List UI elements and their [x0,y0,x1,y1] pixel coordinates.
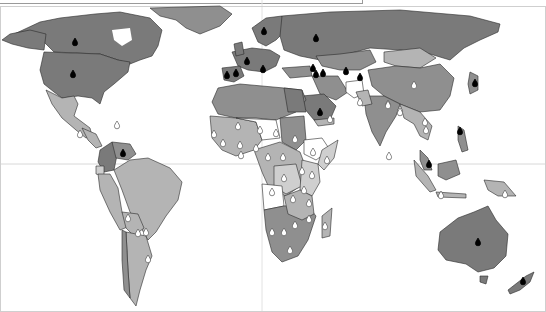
region-new-guinea [484,180,516,196]
map-canvas [0,0,546,312]
black-drop-marker-icon [310,64,315,72]
region-greenland [150,6,232,34]
black-drop-marker-icon [320,69,325,77]
region-tasmania [480,276,488,284]
white-drop-marker-icon [386,152,391,160]
region-turkey [282,66,312,78]
region-alaska [2,30,46,50]
world-map [0,0,546,312]
region-borneo [438,160,460,180]
black-drop-marker-icon [357,73,362,81]
region-madagascar [322,208,332,238]
white-drop-marker-icon [114,121,119,129]
region-australia [438,206,508,272]
region-uk [234,42,244,56]
region-central-america [82,128,102,148]
region-angola [262,184,284,210]
